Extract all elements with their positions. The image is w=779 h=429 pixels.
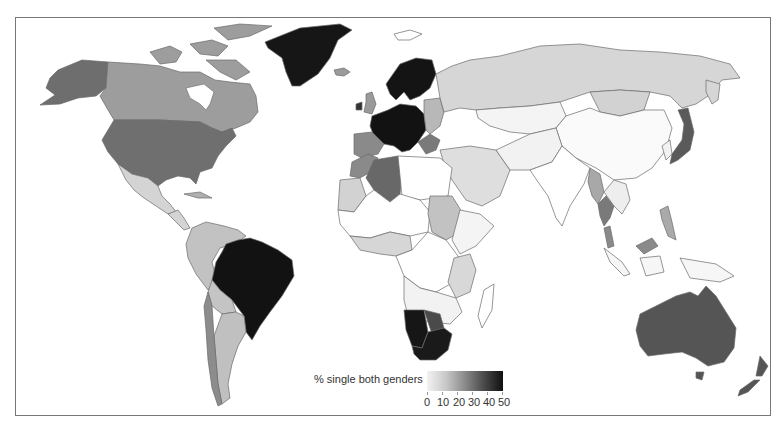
legend-tick	[487, 392, 488, 395]
region-japan	[670, 108, 694, 164]
region-ireland	[356, 102, 362, 110]
world-map	[0, 0, 779, 429]
region-tasmania	[696, 372, 704, 380]
region-philippines	[660, 206, 676, 240]
legend-tick-label: 50	[498, 396, 510, 408]
region-myanmar	[588, 168, 604, 204]
region-scandinavia	[386, 58, 436, 100]
legend-tick-label: 0	[424, 396, 430, 408]
region-malaysia	[604, 226, 658, 254]
region-iceland	[334, 68, 350, 76]
legend-tick	[427, 392, 428, 395]
legend-tick	[457, 392, 458, 395]
region-new-zealand	[738, 356, 768, 396]
legend-tick-label: 30	[468, 396, 480, 408]
legend-color-bar	[427, 371, 503, 391]
region-kamchatka	[706, 80, 720, 104]
region-cuba	[184, 192, 212, 198]
legend-tick-label: 10	[437, 396, 449, 408]
legend-tick	[502, 392, 503, 395]
region-eastern-europe	[424, 98, 444, 134]
region-svalbard	[394, 30, 422, 40]
legend-tick-label: 20	[453, 396, 465, 408]
region-madagascar	[478, 284, 494, 328]
legend-tick	[472, 392, 473, 395]
region-usa	[102, 120, 236, 186]
legend-title: % single both genders	[314, 373, 423, 385]
legend-tick	[442, 392, 443, 395]
legend: % single both genders 0 10 20 30 40 50	[314, 370, 514, 410]
legend-tick-label: 40	[483, 396, 495, 408]
region-indonesia	[604, 248, 734, 282]
region-east-africa	[452, 210, 494, 254]
region-russia	[436, 44, 740, 112]
region-north-africa	[398, 156, 452, 200]
region-greenland	[265, 24, 352, 86]
region-alaska	[40, 60, 108, 105]
region-australia	[636, 286, 736, 366]
region-central-america	[168, 210, 190, 230]
region-uk	[364, 92, 376, 114]
